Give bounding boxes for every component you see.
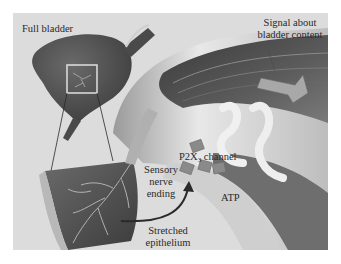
- label-p2x3-prefix: P2X: [179, 151, 198, 162]
- label-stretched-epithelium: Stretched epithelium: [143, 225, 193, 249]
- nerve-tube: [113, 28, 328, 250]
- label-signal-line2: bladder content: [250, 29, 328, 41]
- label-sensory-line1: Sensory: [141, 164, 181, 176]
- figure-panel: Full bladder Signal about bladder conten…: [13, 13, 328, 250]
- label-p2x3-suffix: channel: [201, 151, 236, 162]
- label-p2x3-channel: P2X3 channel: [179, 151, 236, 166]
- label-stretched-line2: epithelium: [143, 237, 193, 249]
- label-full-bladder: Full bladder: [22, 23, 73, 35]
- bladder-illustration: [13, 13, 328, 250]
- label-signal-line1: Signal about: [250, 17, 328, 29]
- label-sensory-line2: nerve: [141, 176, 181, 188]
- label-sensory-line3: ending: [141, 188, 181, 200]
- label-stretched-line1: Stretched: [143, 225, 193, 237]
- label-signal: Signal about bladder content: [250, 17, 328, 41]
- label-sensory-nerve-ending: Sensory nerve ending: [141, 164, 181, 200]
- label-atp: ATP: [221, 192, 240, 204]
